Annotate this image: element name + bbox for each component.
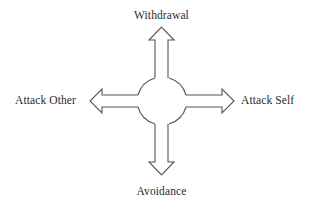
arrow-up-outline <box>149 27 174 78</box>
label-attack-other: Attack Other <box>15 93 83 107</box>
label-attack-self: Attack Self <box>241 93 301 107</box>
label-withdrawal: Withdrawal <box>133 8 190 22</box>
label-avoidance: Avoidance <box>134 184 189 198</box>
center-hub-outline <box>138 78 186 124</box>
arrow-left-outline <box>90 89 138 113</box>
compass-of-shame-diagram: Withdrawal Avoidance Attack Other Attack… <box>0 0 314 204</box>
arrow-down-outline <box>149 124 174 175</box>
arrow-right-outline <box>186 89 234 113</box>
